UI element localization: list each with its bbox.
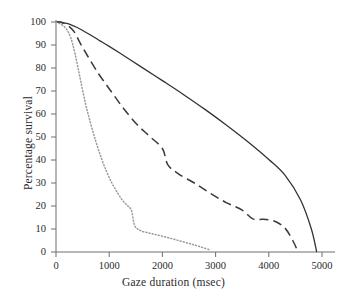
x-tick-label: 4000 xyxy=(244,261,294,272)
series-line-dashed-curve xyxy=(56,22,298,252)
x-tick-label: 1000 xyxy=(84,261,134,272)
x-axis-ticks xyxy=(56,252,322,257)
plot-area xyxy=(0,0,347,299)
y-tick-label: 100 xyxy=(10,17,46,28)
x-tick-label: 5000 xyxy=(297,261,347,272)
data-series-layer xyxy=(56,22,317,252)
survival-curve-figure: 0100020003000400050000102030405060708090… xyxy=(0,0,347,299)
x-tick-label: 3000 xyxy=(191,261,241,272)
x-tick-label: 2000 xyxy=(137,261,187,272)
y-axis-ticks xyxy=(51,22,56,252)
axis-lines xyxy=(56,20,335,252)
y-tick-label: 10 xyxy=(10,224,46,235)
y-tick-label: 90 xyxy=(10,40,46,51)
x-tick-label: 0 xyxy=(31,261,81,272)
y-tick-label: 0 xyxy=(10,247,46,258)
series-line-dotted-curve xyxy=(56,22,209,250)
x-axis-title: Gaze duration (msec) xyxy=(0,276,347,288)
y-axis-title: Percentage survival xyxy=(22,63,34,223)
